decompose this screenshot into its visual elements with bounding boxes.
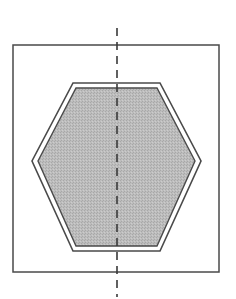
diagram-canvas [0,0,236,299]
